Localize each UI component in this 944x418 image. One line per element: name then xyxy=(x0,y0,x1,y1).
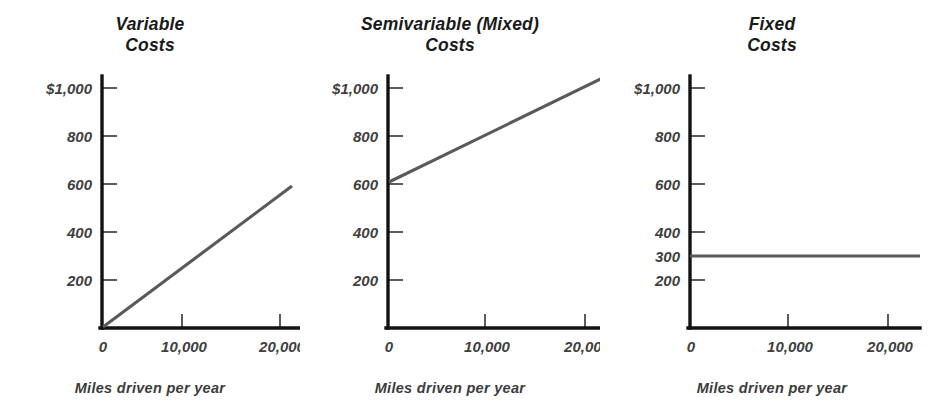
ytick-label-1000: $1,000 xyxy=(633,80,681,97)
x-tick-marks xyxy=(182,314,280,328)
ytick-label-400: 400 xyxy=(352,224,379,241)
y-tick-marks xyxy=(103,88,117,280)
ytick-label-800: 800 xyxy=(353,128,379,145)
plot-area-variable-costs: $1,000 800 600 400 200 xyxy=(0,0,300,418)
ytick-label-600: 600 xyxy=(353,176,379,193)
cost-behavior-figure: VariableCosts $1,000 800 600 400 200 xyxy=(0,0,944,418)
x-axis-label-fixed-costs: Miles driven per year xyxy=(600,380,944,396)
x-tick-marks xyxy=(485,314,585,328)
ytick-label-400: 400 xyxy=(66,224,93,241)
plot-area-fixed-costs: $1,000 800 600 400 300 200 0 10,00 xyxy=(600,0,944,418)
ytick-label-600: 600 xyxy=(67,176,93,193)
ytick-label-800: 800 xyxy=(67,128,93,145)
ytick-label-300: 300 xyxy=(655,248,681,265)
chart-panel-fixed-costs: FixedCosts $1,000 800 600 400 300 200 xyxy=(600,0,944,418)
data-line-variable-cost xyxy=(103,186,292,327)
ytick-label-1000: $1,000 xyxy=(331,80,379,97)
xtick-label-0: 0 xyxy=(687,338,696,355)
xtick-label-20000: 20,000 xyxy=(258,338,300,355)
x-axis-label-variable-costs: Miles driven per year xyxy=(0,380,300,396)
ytick-label-600: 600 xyxy=(655,176,681,193)
xtick-label-0: 0 xyxy=(99,338,108,355)
x-axis-label-semivariable-costs: Miles driven per year xyxy=(300,380,600,396)
ytick-label-400: 400 xyxy=(654,224,681,241)
ytick-label-200: 200 xyxy=(654,272,681,289)
data-line-semivariable-cost xyxy=(389,73,600,182)
ytick-label-800: 800 xyxy=(655,128,681,145)
ytick-label-200: 200 xyxy=(66,272,93,289)
xtick-label-10000: 10,000 xyxy=(767,338,814,355)
x-tick-marks xyxy=(788,314,888,328)
y-tick-marks xyxy=(691,88,705,280)
ytick-label-1000: $1,000 xyxy=(45,80,93,97)
xtick-label-0: 0 xyxy=(385,338,394,355)
plot-area-semivariable-costs: $1,000 800 600 400 200 0 10,000 20 xyxy=(300,0,600,418)
xtick-label-10000: 10,000 xyxy=(464,338,511,355)
ytick-label-200: 200 xyxy=(352,272,379,289)
chart-panel-variable-costs: VariableCosts $1,000 800 600 400 200 xyxy=(0,0,300,418)
y-tick-marks xyxy=(389,88,403,280)
xtick-label-20000: 20,000 xyxy=(563,338,600,355)
xtick-label-20000: 20,000 xyxy=(866,338,914,355)
chart-panel-semivariable-costs: Semivariable (Mixed)Costs $1,000 800 600… xyxy=(300,0,600,418)
xtick-label-10000: 10,000 xyxy=(161,338,208,355)
